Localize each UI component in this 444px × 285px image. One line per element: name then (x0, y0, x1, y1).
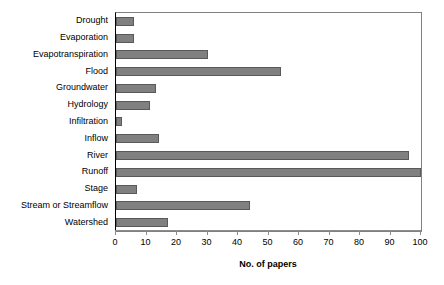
x-tick-label: 100 (400, 237, 440, 248)
bar-row (116, 181, 421, 198)
bar-row (116, 97, 421, 114)
x-axis: 0102030405060708090100 (115, 230, 421, 232)
x-tick (329, 231, 330, 235)
x-axis-title: No. of papers (115, 259, 421, 269)
x-tick (420, 231, 421, 235)
bar-row (116, 80, 421, 97)
bar (116, 84, 156, 93)
bar-row (116, 63, 421, 80)
bar (116, 185, 137, 194)
x-tick (390, 231, 391, 235)
bar-row (116, 147, 421, 164)
bar-row (116, 30, 421, 47)
bar-row (116, 47, 421, 64)
x-tick (207, 231, 208, 235)
x-tick (298, 231, 299, 235)
bar-row (116, 114, 421, 131)
bar (116, 151, 409, 160)
bar-row (116, 13, 421, 30)
bar (116, 134, 159, 143)
category-label: Stage (0, 180, 112, 197)
bar (116, 17, 134, 26)
bar (116, 168, 421, 177)
bar (116, 50, 208, 59)
category-label: Flood (0, 62, 112, 79)
bar (116, 101, 150, 110)
x-tick (115, 231, 116, 235)
x-tick (268, 231, 269, 235)
bar-row (116, 130, 421, 147)
bar-series (116, 13, 421, 231)
bar-row (116, 214, 421, 231)
category-label: Drought (0, 12, 112, 29)
category-label: Evaporation (0, 29, 112, 46)
bar-row (116, 164, 421, 181)
category-label: River (0, 146, 112, 163)
category-axis-labels: DroughtEvaporationEvapotranspirationFloo… (0, 12, 112, 230)
category-label: Runoff (0, 163, 112, 180)
category-label: Stream or Streamflow (0, 196, 112, 213)
x-tick (359, 231, 360, 235)
bar-row (116, 197, 421, 214)
category-label: Hydrology (0, 96, 112, 113)
bar (116, 201, 250, 210)
bar (116, 218, 168, 227)
bar (116, 34, 134, 43)
plot-area (115, 12, 422, 232)
x-tick (146, 231, 147, 235)
bar (116, 67, 281, 76)
category-label: Inflow (0, 129, 112, 146)
x-tick (176, 231, 177, 235)
category-label: Groundwater (0, 79, 112, 96)
category-label: Infiltration (0, 113, 112, 130)
category-label: Watershed (0, 213, 112, 230)
x-tick (237, 231, 238, 235)
category-label: Evapotranspiration (0, 46, 112, 63)
bar-chart: DroughtEvaporationEvapotranspirationFloo… (0, 0, 444, 285)
bar (116, 117, 122, 126)
